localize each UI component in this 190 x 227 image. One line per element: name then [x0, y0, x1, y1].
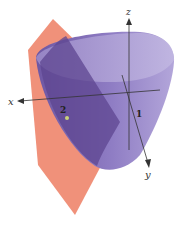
- x-axis-label: x: [8, 96, 14, 107]
- paraboloid-plane-diagram: z x y 2 1: [0, 0, 190, 227]
- z-axis-label: z: [125, 7, 131, 17]
- y-tick-label: 1: [136, 109, 142, 119]
- x-tick-label: 2: [60, 105, 66, 115]
- highlight-point: [65, 116, 69, 120]
- y-axis-label: y: [144, 169, 151, 180]
